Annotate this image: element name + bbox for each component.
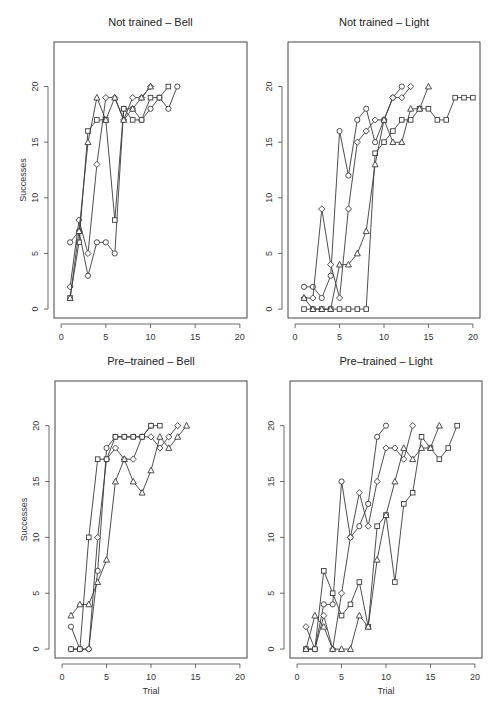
- y-tick-label: 0: [264, 307, 274, 312]
- panel-pre-trained-light: Pre–trained – Light05101520Trial05101520: [266, 355, 482, 696]
- diamond-marker: [303, 624, 309, 630]
- triangle-marker: [372, 161, 378, 167]
- square-marker: [95, 457, 100, 462]
- series-line: [304, 87, 402, 299]
- square-marker: [122, 435, 127, 440]
- y-tick-label: 10: [30, 193, 40, 203]
- square-marker: [462, 95, 467, 100]
- diamond-marker: [356, 490, 362, 496]
- plot-frame: [55, 381, 247, 658]
- square-marker: [375, 524, 380, 529]
- x-tick-label: 10: [379, 332, 389, 342]
- square-marker: [139, 118, 144, 123]
- y-tick-label: 15: [30, 137, 40, 147]
- circle-marker: [166, 106, 171, 111]
- panel-not-trained-bell: Not trained – Bell0510152005101520Succes…: [18, 16, 247, 342]
- y-tick-label: 0: [31, 647, 41, 652]
- square-marker: [157, 95, 162, 100]
- triangle-marker: [157, 434, 163, 440]
- panel-pre-trained-bell: Pre–trained – Bell05101520Trial05101520S…: [19, 355, 247, 696]
- diamond-marker: [336, 295, 342, 301]
- x-axis-label: Trial: [377, 686, 394, 696]
- square-marker: [104, 457, 109, 462]
- square-marker: [113, 435, 118, 440]
- diamond-marker: [374, 478, 380, 484]
- x-axis: 05101520: [295, 664, 480, 682]
- y-tick-label: 5: [31, 591, 41, 596]
- x-tick-label: 20: [468, 332, 478, 342]
- square-marker: [95, 118, 100, 123]
- circle-marker: [355, 117, 360, 122]
- x-tick-label: 20: [235, 332, 245, 342]
- y-tick-label: 20: [30, 82, 40, 92]
- circle-marker: [366, 501, 371, 506]
- circle-marker: [375, 434, 380, 439]
- circle-marker: [346, 173, 351, 178]
- y-axis: 05101520: [264, 82, 282, 312]
- diamond-marker: [338, 590, 344, 596]
- square-marker: [391, 129, 396, 134]
- square-marker: [401, 502, 406, 507]
- circle-marker: [357, 524, 362, 529]
- triangle-marker: [356, 612, 362, 618]
- y-tick-label: 10: [264, 193, 274, 203]
- triangle-marker: [392, 478, 398, 484]
- circle-marker: [321, 602, 326, 607]
- x-tick-label: 15: [190, 332, 200, 342]
- square-marker: [355, 307, 360, 312]
- series-subject-2: [67, 83, 154, 290]
- triangle-marker: [104, 557, 110, 563]
- diamond-marker: [130, 456, 136, 462]
- x-axis: 05101520: [293, 324, 478, 342]
- square-marker: [346, 307, 351, 312]
- series-subject-3: [302, 95, 475, 311]
- triangle-marker: [130, 478, 136, 484]
- circle-marker: [399, 84, 404, 89]
- y-axis-label: Successes: [19, 497, 29, 541]
- series-line: [71, 426, 187, 616]
- y-tick-label: 5: [30, 251, 40, 256]
- panel-title: Not trained – Light: [339, 16, 429, 28]
- circle-marker: [85, 273, 90, 278]
- triangle-marker: [312, 612, 318, 618]
- circle-marker: [112, 251, 117, 256]
- triangle-marker: [363, 228, 369, 234]
- y-axis: 05101520: [31, 421, 49, 652]
- y-tick-label: 15: [264, 137, 274, 147]
- panel-not-trained-light: Not trained – Light0510152005101520: [264, 16, 480, 342]
- y-tick-label: 20: [264, 82, 274, 92]
- circle-marker: [328, 273, 333, 278]
- square-marker: [455, 423, 460, 428]
- triangle-marker: [112, 478, 118, 484]
- square-marker: [337, 307, 342, 312]
- triangle-marker: [354, 250, 360, 256]
- diamond-marker: [310, 295, 316, 301]
- triangle-marker: [94, 94, 100, 100]
- square-marker: [357, 580, 362, 585]
- circle-marker: [383, 423, 388, 428]
- triangle-marker: [184, 422, 190, 428]
- square-marker: [321, 569, 326, 574]
- square-marker: [408, 118, 413, 123]
- series-subject-3: [69, 423, 162, 651]
- circle-marker: [103, 240, 108, 245]
- circle-marker: [319, 295, 324, 300]
- triangle-marker: [401, 445, 407, 451]
- diamond-marker: [410, 423, 416, 429]
- circle-marker: [301, 284, 306, 289]
- y-tick-label: 0: [266, 647, 276, 652]
- diamond-marker: [85, 250, 91, 256]
- series-subject-4: [67, 83, 153, 300]
- series-subject-1: [68, 423, 153, 652]
- series-subject-4: [68, 422, 190, 617]
- x-tick-label: 15: [425, 672, 435, 682]
- triangle-marker: [436, 422, 442, 428]
- square-marker: [364, 307, 369, 312]
- y-tick-label: 15: [266, 477, 276, 487]
- square-marker: [410, 490, 415, 495]
- square-marker: [435, 118, 440, 123]
- square-marker: [148, 95, 153, 100]
- x-tick-label: 15: [423, 332, 433, 342]
- x-tick-label: 0: [59, 332, 64, 342]
- square-marker: [86, 535, 91, 540]
